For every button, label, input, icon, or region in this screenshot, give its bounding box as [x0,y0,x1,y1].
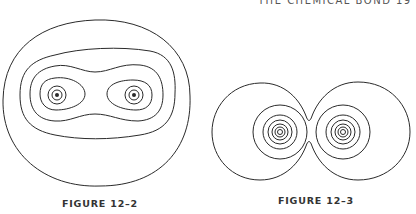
running-head: THE CHEMICAL BOND 19 [258,0,391,6]
figure-12-2-diagram [0,18,210,208]
figure-12-3-diagram [210,60,416,190]
page-number: 19 [396,0,412,6]
running-title: THE CHEMICAL BOND [258,0,391,6]
figure-12-2-caption: FIGURE 12–2 [62,198,138,209]
figure-12-3-caption: FIGURE 12–3 [278,195,354,206]
